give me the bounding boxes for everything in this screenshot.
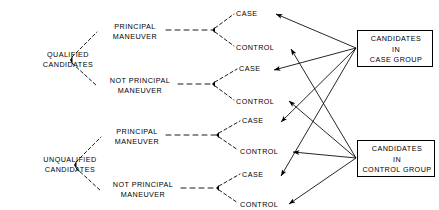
- arrow-case-group-to-q-npm-case: [274, 48, 356, 70]
- branch-label-qualified-not-principal: NOT PRINCIPAL MANEUVER: [110, 76, 170, 95]
- arrow-control-group-to-u-npm-control: [289, 158, 356, 204]
- branch-u-principal-line2: MANEUVER: [115, 137, 159, 147]
- outcome-label-q-pm-control: CONTROL: [236, 43, 274, 53]
- diagram-canvas: QUALIFIED CANDIDATES UNQUALIFIED CANDIDA…: [0, 0, 439, 210]
- fork-q-principal-case: [215, 14, 234, 28]
- fork-u-principal-case: [219, 121, 240, 133]
- branch-label-unqualified-principal: PRINCIPAL MANEUVER: [115, 127, 159, 146]
- fork-marker-q-principal: [212, 27, 215, 33]
- fork-u-not-principal-case: [219, 174, 240, 186]
- fork-marker-u-not-principal: [216, 185, 219, 191]
- fork-u-not-principal-control: [219, 190, 238, 203]
- control-group-box-text: CANDIDATES IN CONTROL GROUP: [358, 144, 436, 176]
- fork-q-not-principal-control: [215, 86, 234, 100]
- case-group-line2: IN: [358, 45, 434, 56]
- branch-q-not-principal-line2: MANEUVER: [110, 86, 170, 96]
- root-qualified-line1: QUALIFIED: [43, 50, 93, 60]
- fork-q-principal-control: [215, 32, 234, 46]
- outcome-label-u-pm-control: CONTROL: [240, 147, 278, 157]
- root-unqualified-line1: UNQUALIFIED: [43, 155, 96, 165]
- fork-u-principal-control: [219, 137, 238, 150]
- branch-label-qualified-principal: PRINCIPAL MANEUVER: [113, 22, 157, 41]
- fork-marker-u-principal: [216, 132, 219, 138]
- arrow-control-group-to-q-npm-control: [289, 101, 356, 158]
- case-group-line3: CASE GROUP: [358, 55, 434, 66]
- branch-q-principal-line2: MANEUVER: [113, 32, 157, 42]
- outcome-label-q-pm-case: CASE: [236, 9, 257, 19]
- branch-q-principal-line1: PRINCIPAL: [113, 22, 157, 32]
- branch-q-not-principal-line1: NOT PRINCIPAL: [110, 76, 170, 86]
- outcome-label-q-npm-control: CONTROL: [236, 97, 274, 107]
- case-group-line1: CANDIDATES: [358, 34, 434, 45]
- branch-u-not-principal-line1: NOT PRINCIPAL: [113, 180, 173, 190]
- control-group-line3: CONTROL GROUP: [358, 165, 436, 176]
- root-label-unqualified: UNQUALIFIED CANDIDATES: [43, 155, 96, 174]
- case-group-box[interactable]: CANDIDATES IN CASE GROUP: [357, 30, 433, 67]
- arrow-control-group-to-u-pm-control: [293, 152, 356, 158]
- outcome-label-q-npm-case: CASE: [239, 64, 260, 74]
- arrow-case-group-to-u-pm-case: [281, 48, 356, 122]
- root-label-qualified: QUALIFIED CANDIDATES: [43, 50, 93, 69]
- fork-marker-q-not-principal: [212, 81, 215, 87]
- branch-label-unqualified-not-principal: NOT PRINCIPAL MANEUVER: [113, 180, 173, 199]
- control-group-line2: IN: [358, 155, 436, 166]
- root-qualified-line2: CANDIDATES: [43, 60, 93, 70]
- arrow-case-group-to-q-pm-case: [276, 14, 356, 48]
- branch-u-not-principal-line2: MANEUVER: [113, 190, 173, 200]
- outcome-label-u-npm-control: CONTROL: [240, 200, 278, 210]
- outcome-label-u-pm-case: CASE: [242, 116, 263, 126]
- control-group-line1: CANDIDATES: [358, 144, 436, 155]
- control-group-box[interactable]: CANDIDATES IN CONTROL GROUP: [357, 140, 435, 177]
- root-unqualified-line2: CANDIDATES: [43, 165, 96, 175]
- outcome-label-u-npm-case: CASE: [242, 170, 263, 180]
- fork-q-not-principal-case: [215, 69, 237, 82]
- case-group-box-text: CANDIDATES IN CASE GROUP: [358, 34, 434, 66]
- branch-u-principal-line1: PRINCIPAL: [115, 127, 159, 137]
